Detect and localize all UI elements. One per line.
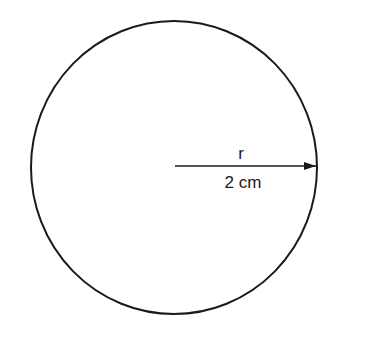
radius-value: 2 cm	[225, 173, 262, 192]
circle	[31, 21, 317, 314]
radius-label: r	[238, 144, 244, 163]
circle-diagram: r 2 cm	[0, 0, 376, 340]
